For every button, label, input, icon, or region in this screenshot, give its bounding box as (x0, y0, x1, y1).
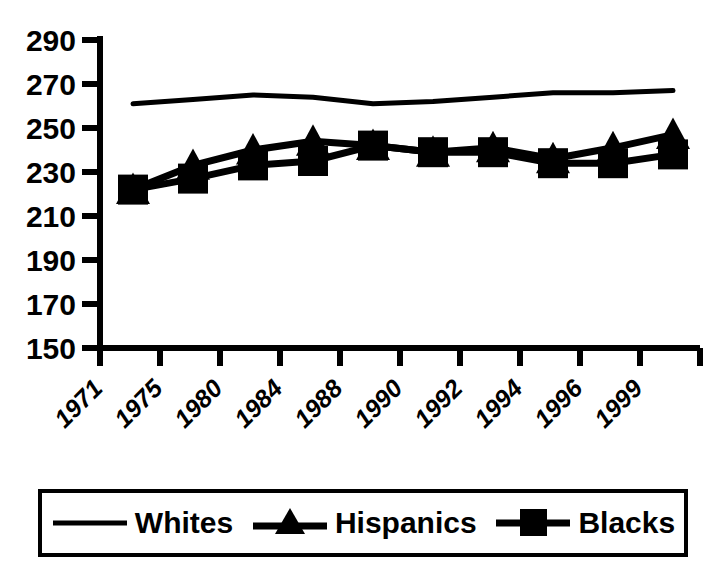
line-swatch-icon (51, 506, 129, 540)
legend-label-hispanics: Hispanics (335, 508, 477, 538)
y-tick-label: 290 (26, 24, 76, 57)
x-tick-label: 1990 (348, 374, 407, 433)
x-tick-label: 1992 (408, 374, 467, 433)
x-axis-tick-labels: 1971197519801984198819901992199419961999 (48, 373, 647, 433)
y-tick-label: 210 (26, 200, 76, 233)
x-tick-label: 1971 (48, 374, 107, 433)
y-tick-label: 150 (26, 332, 76, 365)
x-tick-label: 1980 (168, 374, 227, 433)
x-tick-label: 1994 (468, 374, 527, 433)
square-marker-icon (494, 506, 572, 540)
series-blacks (118, 131, 688, 205)
y-tick-label: 190 (26, 244, 76, 277)
chart-figure: 290 270 250 230 210 190 170 150 19711975… (0, 0, 727, 583)
y-axis-tick-labels: 290 270 250 230 210 190 170 150 (26, 24, 76, 365)
x-tick-label: 1999 (588, 374, 647, 433)
triangle-marker-icon (251, 506, 329, 540)
x-tick-label: 1975 (108, 373, 168, 433)
series-whites (133, 91, 673, 104)
legend-label-blacks: Blacks (578, 508, 675, 538)
x-tick-label: 1984 (228, 374, 287, 433)
legend-item-whites: Whites (51, 506, 233, 540)
y-tick-label: 230 (26, 156, 76, 189)
chart-legend: Whites Hispanics Blacks (38, 489, 688, 557)
x-tick-label: 1996 (528, 373, 588, 433)
legend-item-hispanics: Hispanics (251, 506, 477, 540)
chart-canvas: 290 270 250 230 210 190 170 150 19711975… (0, 0, 727, 480)
legend-label-whites: Whites (135, 508, 233, 538)
x-tick-label: 1988 (288, 374, 347, 433)
y-tick-label: 250 (26, 112, 76, 145)
data-point-marker-triangle (656, 118, 690, 149)
y-tick-label: 170 (26, 288, 76, 321)
y-tick-label: 270 (26, 68, 76, 101)
legend-item-blacks: Blacks (494, 506, 675, 540)
plot-area: 290 270 250 230 210 190 170 150 19711975… (0, 0, 727, 480)
